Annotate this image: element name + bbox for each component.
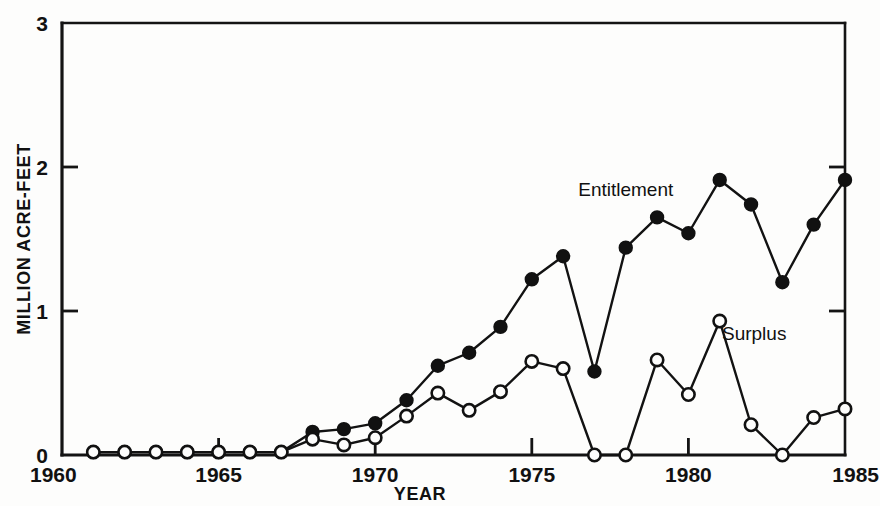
datapoint-entitlement-1982: [745, 198, 758, 211]
chart-container: 0123 196019651970197519801985 Entitlemen…: [0, 0, 880, 506]
datapoint-entitlement-1976: [557, 250, 570, 263]
datapoint-surplus-1969: [338, 439, 350, 451]
datapoint-surplus-1972: [432, 387, 444, 399]
y-tick-label-1: 1: [36, 300, 48, 323]
datapoint-surplus-1965: [212, 446, 224, 458]
datapoint-entitlement-1979: [651, 211, 664, 224]
datapoint-entitlement-1985: [839, 174, 852, 187]
datapoint-surplus-1961: [87, 446, 99, 458]
x-axis-title: YEAR: [394, 484, 446, 504]
line-chart: 0123 196019651970197519801985 Entitlemen…: [0, 0, 880, 506]
x-axis-tick-labels: 196019651970197519801985: [30, 463, 879, 486]
datapoint-surplus-1967: [275, 446, 287, 458]
datapoint-surplus-1973: [463, 404, 475, 416]
datapoint-surplus-1963: [150, 446, 162, 458]
datapoint-surplus-1984: [807, 411, 819, 423]
datapoint-surplus-1982: [745, 419, 757, 431]
datapoint-surplus-1976: [557, 362, 569, 374]
datapoint-surplus-1979: [651, 354, 663, 366]
x-tick-label-1980: 1980: [665, 463, 712, 486]
datapoint-entitlement-1974: [494, 320, 507, 333]
datapoint-entitlement-1977: [588, 365, 601, 378]
datapoint-surplus-1975: [526, 355, 538, 367]
y-axis-tick-labels: 0123: [36, 12, 48, 467]
x-tick-label-1985: 1985: [832, 463, 879, 486]
x-tick-label-1960: 1960: [30, 463, 77, 486]
datapoint-entitlement-1973: [463, 346, 476, 359]
y-tick-label-2: 2: [36, 156, 48, 179]
datapoint-entitlement-1980: [682, 227, 695, 240]
datapoint-surplus-1962: [118, 446, 130, 458]
x-tick-label-1970: 1970: [352, 463, 399, 486]
x-tick-label-1965: 1965: [195, 463, 242, 486]
datapoint-entitlement-1981: [713, 174, 726, 187]
datapoint-entitlement-1978: [619, 241, 632, 254]
datapoint-surplus-1974: [494, 385, 506, 397]
datapoint-entitlement-1972: [431, 359, 444, 372]
datapoint-surplus-1968: [306, 433, 318, 445]
datapoint-surplus-1964: [181, 446, 193, 458]
y-axis-ticks: [62, 167, 845, 311]
datapoint-entitlement-1971: [400, 394, 413, 407]
datapoint-entitlement-1983: [776, 276, 789, 289]
y-tick-label-3: 3: [36, 12, 48, 35]
datapoint-surplus-1971: [400, 410, 412, 422]
datapoint-surplus-1983: [776, 449, 788, 461]
series-label-surplus: Surplus: [722, 323, 786, 344]
datapoint-surplus-1985: [839, 403, 851, 415]
datapoint-entitlement-1969: [337, 423, 350, 436]
datapoint-entitlement-1975: [525, 273, 538, 286]
series-markers-group: [87, 174, 851, 462]
datapoint-surplus-1970: [369, 432, 381, 444]
series-label-entitlement: Entitlement: [578, 179, 674, 200]
datapoint-entitlement-1984: [807, 218, 820, 231]
datapoint-surplus-1980: [682, 388, 694, 400]
datapoint-surplus-1978: [620, 449, 632, 461]
x-tick-label-1975: 1975: [508, 463, 555, 486]
datapoint-surplus-1966: [244, 446, 256, 458]
datapoint-surplus-1977: [588, 449, 600, 461]
datapoint-entitlement-1970: [369, 417, 382, 430]
y-axis-title: MILLION ACRE-FEET: [14, 143, 34, 335]
